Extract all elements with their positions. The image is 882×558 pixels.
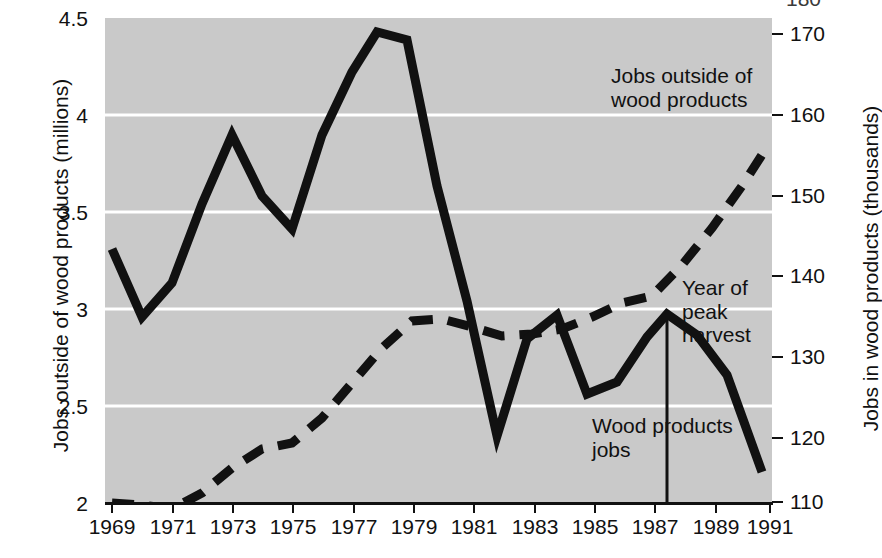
y-right-tick-160: 160 <box>790 104 825 125</box>
x-tickmark-1991 <box>769 504 771 513</box>
y-right-tickmark-150 <box>772 195 783 197</box>
x-tickmark-1985 <box>594 504 596 513</box>
y-right-tickmark-110 <box>772 501 783 503</box>
y-right-tick-120: 120 <box>790 427 825 448</box>
y-right-tickmark-120 <box>772 437 783 439</box>
y-right-tick-150: 150 <box>790 185 825 206</box>
y-left-tick-2: 2 <box>18 493 88 514</box>
clipped-top-tick-label: 180 <box>786 0 821 11</box>
peak-harvest-annotation: Year of peak harvest <box>682 276 772 347</box>
y-axis-left-title: Jobs outside of wood products (millions) <box>50 36 71 496</box>
y-right-tickmark-130 <box>772 356 783 358</box>
x-tickmark-1987 <box>654 504 656 513</box>
x-tickmark-1977 <box>353 504 355 513</box>
y-left-tick-4.5: 4.5 <box>18 8 88 29</box>
x-tickmark-1971 <box>172 504 174 513</box>
x-tickmark-1989 <box>715 504 717 513</box>
jobs-outside-annotation: Jobs outside of wood products <box>611 64 752 111</box>
x-tickmark-1981 <box>473 504 475 513</box>
x-tickmark-1969 <box>111 504 113 513</box>
y-right-tickmark-160 <box>772 114 783 116</box>
x-tickmark-1973 <box>232 504 234 513</box>
x-tickmark-1983 <box>534 504 536 513</box>
y-right-tick-170: 170 <box>790 23 825 44</box>
x-tickmark-1979 <box>413 504 415 513</box>
wood-products-annotation: Wood products jobs <box>592 414 733 461</box>
y-right-tick-130: 130 <box>790 346 825 367</box>
y-right-tickmark-170 <box>772 33 783 35</box>
x-tick-1991: 1991 <box>730 516 810 537</box>
plot-area: Jobs outside of wood products Wood produ… <box>105 18 772 503</box>
y-axis-right-title: Jobs in wood products (thousands) <box>860 39 881 499</box>
x-tickmark-1975 <box>292 504 294 513</box>
y-right-tickmark-140 <box>772 275 783 277</box>
y-right-tick-140: 140 <box>790 265 825 286</box>
gridlines <box>105 115 772 406</box>
x-axis-line <box>105 502 773 505</box>
y-right-tick-110: 110 <box>790 491 823 512</box>
